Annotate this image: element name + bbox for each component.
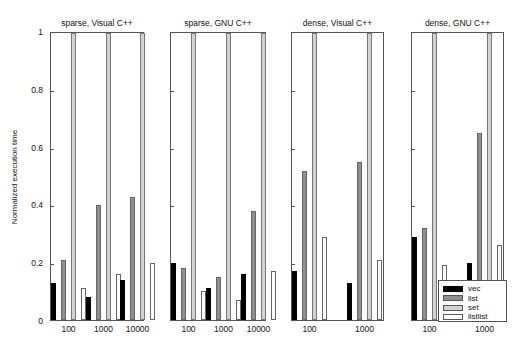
bar-vec xyxy=(292,271,297,320)
bar-set xyxy=(261,33,266,320)
legend-swatch-set xyxy=(443,305,463,311)
bar-vec xyxy=(120,280,125,320)
chart-panel: sparse, Visual C++100100010000 xyxy=(50,32,144,321)
bar-vec xyxy=(51,283,56,320)
bar-vec xyxy=(241,274,246,320)
y-tick xyxy=(171,149,174,150)
panel-title: dense, GNU C++ xyxy=(412,18,503,28)
bar-set xyxy=(487,33,492,320)
chart-panel: dense, Visual C++1001000 xyxy=(291,32,384,321)
x-tick-label: 10000 xyxy=(247,324,271,334)
bar-set xyxy=(432,33,437,320)
bar-set xyxy=(191,33,196,320)
x-tick-label: 10000 xyxy=(126,324,150,334)
bar-list xyxy=(216,277,221,320)
y-tick-label: 0.4 xyxy=(13,200,43,210)
legend-item-vec: vec xyxy=(443,284,480,293)
legend-label: set xyxy=(468,303,479,312)
panel-title: sparse, Visual C++ xyxy=(51,18,143,28)
y-tick xyxy=(171,91,174,92)
legend-item-list: list xyxy=(443,294,478,303)
x-tick-label: 100 xyxy=(302,324,316,334)
bar-set xyxy=(71,33,76,320)
panel-title: sparse, GNU C++ xyxy=(171,18,265,28)
bar-set xyxy=(312,33,317,320)
bar-list xyxy=(61,260,66,320)
y-tick xyxy=(171,206,174,207)
bar-list xyxy=(422,228,427,320)
bar-listlist xyxy=(322,237,327,320)
bar-list xyxy=(96,205,101,320)
bar-listlist xyxy=(150,263,155,320)
y-tick-label: 0.8 xyxy=(13,85,43,95)
bar-list xyxy=(357,162,362,320)
x-tick-label: 1000 xyxy=(475,324,494,334)
legend-label: listlist xyxy=(468,312,488,321)
x-tick-label: 100 xyxy=(61,324,75,334)
x-tick-label: 100 xyxy=(181,324,195,334)
legend-swatch-list xyxy=(443,295,463,301)
legend-swatch-vec xyxy=(443,286,463,292)
chart-panel: dense, GNU C++1001000 xyxy=(411,32,504,321)
panel-title: dense, Visual C++ xyxy=(292,18,383,28)
bar-list xyxy=(251,211,256,320)
y-tick xyxy=(292,149,295,150)
bar-vec xyxy=(412,237,417,320)
bar-vec xyxy=(347,283,352,320)
y-tick-label: 0.2 xyxy=(13,258,43,268)
y-tick-label: 0.6 xyxy=(13,143,43,153)
bar-list xyxy=(181,268,186,320)
y-tick xyxy=(412,91,415,92)
y-tick xyxy=(292,264,295,265)
bar-set xyxy=(140,33,145,320)
bar-set xyxy=(367,33,372,320)
bar-listlist xyxy=(377,260,382,320)
bar-set xyxy=(226,33,231,320)
y-tick xyxy=(292,206,295,207)
y-tick-label: 1 xyxy=(13,27,43,37)
bar-list xyxy=(302,171,307,320)
y-tick xyxy=(51,206,54,207)
x-tick-label: 100 xyxy=(422,324,436,334)
legend-label: list xyxy=(468,294,478,303)
legend-item-listlist: listlist xyxy=(443,312,488,321)
legend-swatch-listlist xyxy=(443,314,463,320)
bar-vec xyxy=(171,263,176,320)
x-tick-label: 1000 xyxy=(94,324,113,334)
bar-list xyxy=(130,197,135,320)
y-tick-label: 0 xyxy=(13,316,43,326)
chart-panel: sparse, GNU C++100100010000 xyxy=(170,32,266,321)
legend-item-set: set xyxy=(443,303,479,312)
x-tick-label: 1000 xyxy=(355,324,374,334)
y-tick xyxy=(412,206,415,207)
y-tick xyxy=(51,149,54,150)
y-tick xyxy=(412,149,415,150)
bar-set xyxy=(106,33,111,320)
legend: vec list set listlist xyxy=(438,280,507,322)
bar-listlist xyxy=(271,271,276,320)
bar-vec xyxy=(206,288,211,320)
bar-vec xyxy=(86,297,91,320)
x-tick-label: 1000 xyxy=(214,324,233,334)
y-tick xyxy=(292,91,295,92)
y-tick xyxy=(51,91,54,92)
legend-label: vec xyxy=(468,284,480,293)
y-tick xyxy=(51,264,54,265)
